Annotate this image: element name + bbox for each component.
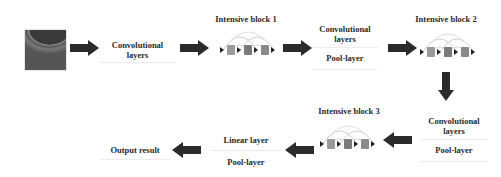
arrow-right-icon [180, 40, 210, 56]
conv-label-line2: layers [100, 50, 175, 60]
conv-label-line2: layers [420, 126, 488, 136]
conv-label-line1: Convolutional [312, 24, 378, 34]
intensive-block-2-title: Intensive block 2 [415, 14, 477, 24]
conv-label-line1: Convolutional [420, 116, 488, 126]
intensive-block-1-title: Intensive block 1 [215, 14, 277, 24]
pool-layer-label: Pool-layer [210, 157, 282, 167]
intensive-block-3-icon [320, 120, 378, 152]
conv-label-line2: layers [312, 34, 378, 44]
divider [420, 139, 488, 140]
arrow-left-icon [285, 142, 315, 158]
pool-layer-label: Pool-layer [420, 145, 488, 155]
conv-pool-box-1: Convolutional layers Pool-layer [312, 24, 378, 70]
arrow-left-icon [172, 142, 202, 158]
pool-layer-label: Pool-layer [312, 53, 378, 63]
divider [312, 47, 378, 48]
arrow-down-icon [438, 72, 454, 102]
output-result-box: Output result [100, 145, 170, 160]
output-result-label: Output result [100, 145, 170, 155]
divider [420, 161, 488, 162]
convolutional-layers-box: Convolutional layers [100, 40, 175, 63]
linear-pool-box: Linear layer Pool-layer [210, 135, 282, 167]
arrow-right-icon [283, 40, 313, 56]
intensive-block-3-title: Intensive block 3 [318, 106, 380, 116]
arrow-right-icon [388, 40, 418, 56]
conv-pool-box-2: Convolutional layers Pool-layer [420, 116, 488, 162]
arrow-right-icon [70, 40, 100, 56]
divider [312, 69, 378, 70]
intensive-block-1-icon [220, 26, 278, 58]
arrow-left-icon [383, 132, 413, 148]
divider [210, 150, 282, 151]
linear-layer-label: Linear layer [210, 135, 282, 145]
intensive-block-2-icon [420, 28, 478, 60]
input-image [24, 29, 67, 71]
conv-label-line1: Convolutional [100, 40, 175, 50]
